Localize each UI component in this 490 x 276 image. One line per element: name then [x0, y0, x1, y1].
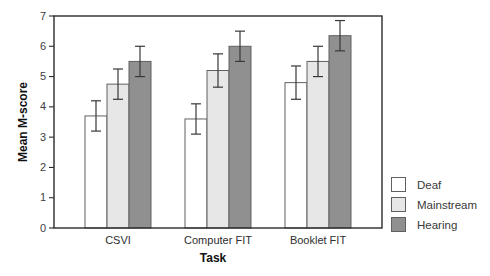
bar-deaf-csvi — [85, 116, 107, 228]
figure: 01234567CSVIComputer FITBooklet FIT Mean… — [0, 0, 490, 276]
legend-item-mainstream: Mainstream — [391, 197, 477, 212]
y-tick-label: 1 — [40, 191, 46, 203]
legend-label: Mainstream — [417, 199, 477, 211]
bar-deaf-booklet-fit — [285, 83, 307, 228]
y-tick-label: 2 — [40, 161, 46, 173]
y-axis-title: Mean M-score — [16, 82, 30, 162]
y-tick-label: 5 — [40, 70, 46, 82]
x-category-label-computer-fit: Computer FIT — [184, 234, 252, 246]
bar-hearing-csvi — [129, 61, 151, 228]
bar-hearing-computer-fit — [229, 46, 251, 228]
bar-chart: 01234567CSVIComputer FITBooklet FIT Mean… — [0, 0, 490, 276]
legend-item-deaf: Deaf — [391, 177, 477, 192]
y-tick-label: 6 — [40, 40, 46, 52]
legend-item-hearing: Hearing — [391, 217, 477, 232]
x-category-label-booklet-fit: Booklet FIT — [290, 234, 347, 246]
mainstream-swatch — [391, 197, 406, 212]
y-tick-label: 7 — [40, 10, 46, 22]
y-tick-label: 3 — [40, 131, 46, 143]
legend: Deaf Mainstream Hearing — [391, 177, 477, 232]
bar-mainstream-booklet-fit — [307, 61, 329, 228]
legend-label: Hearing — [417, 219, 457, 231]
y-tick-label: 4 — [40, 100, 46, 112]
x-axis-title: Task — [200, 251, 227, 265]
bar-mainstream-computer-fit — [207, 71, 229, 228]
bar-mainstream-csvi — [107, 84, 129, 228]
x-category-label-csvi: CSVI — [105, 234, 131, 246]
bar-deaf-computer-fit — [185, 119, 207, 228]
y-tick-label: 0 — [40, 222, 46, 234]
legend-label: Deaf — [417, 179, 441, 191]
deaf-swatch — [391, 177, 406, 192]
bar-hearing-booklet-fit — [329, 36, 351, 228]
hearing-swatch — [391, 217, 406, 232]
